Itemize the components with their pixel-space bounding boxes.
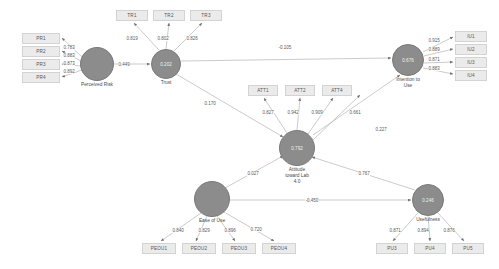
path-coefficient-tr-att: 0.170 [204, 101, 216, 106]
loading-label-iu-iu1: 0.915 [428, 38, 440, 43]
construct-label-pu: Usefulness [398, 217, 458, 223]
loading-label-att-att1: 0.827 [262, 110, 274, 115]
loading-label-iu-iu2: 0.889 [428, 47, 440, 52]
loading-label-pu-pu3: 0.871 [389, 228, 401, 233]
loading-label-eou-peou3: 0.896 [224, 228, 236, 233]
construct-node-att[interactable]: 0.792 [279, 130, 315, 166]
loading-label-pu-pu4: 0.894 [417, 228, 429, 233]
path-coefficient-att-iu: 0.227 [375, 127, 387, 132]
construct-node-pu[interactable]: 0.246 [412, 184, 444, 216]
loading-label-pr-pr4: 0.892 [63, 69, 75, 74]
construct-label-att: Attitude toward Lab 4.0 [267, 167, 327, 185]
construct-node-iu[interactable]: 0.676 [392, 44, 424, 76]
loading-label-eou-peou4: 0.720 [250, 227, 262, 232]
indicator-box-pr2[interactable]: PR2 [22, 46, 60, 57]
path-coefficient-eou-att: 0.027 [247, 171, 259, 176]
indicator-box-tr1[interactable]: TR1 [116, 10, 148, 21]
loading-label-pr-pr2: 0.883 [63, 53, 75, 58]
construct-label-tr: Trust [136, 80, 196, 86]
path-coefficient-pr-tr: 0.449 [118, 62, 130, 67]
loading-label-tr-tr2: 0.802 [157, 36, 169, 41]
construct-label-pr: Perceived Risk [67, 82, 127, 88]
indicator-box-pr3[interactable]: PR3 [22, 59, 60, 70]
indicator-box-pu3[interactable]: PU3 [376, 243, 408, 254]
loading-label-att-att4: 0.909 [311, 110, 323, 115]
indicator-box-peou2[interactable]: PEOU2 [182, 243, 216, 254]
indicator-box-peou4[interactable]: PEOU4 [262, 243, 296, 254]
construct-node-pr[interactable] [80, 47, 114, 81]
indicator-box-tr2[interactable]: TR2 [153, 10, 185, 21]
loading-label-eou-peou1: 0.840 [172, 228, 184, 233]
indicator-box-pr1[interactable]: PR1 [22, 33, 60, 44]
construct-node-tr[interactable]: 0.202 [151, 49, 181, 79]
path-coefficient-eou-pu: -0.450 [305, 198, 319, 203]
indicator-box-iu1[interactable]: IU1 [455, 31, 487, 42]
loading-label-iu-iu3: 0.871 [428, 57, 440, 62]
loading-label-att-att5: 0.661 [349, 110, 361, 115]
indicator-box-att2[interactable]: ATT2 [285, 85, 315, 96]
indicator-box-att1[interactable]: ATT1 [248, 85, 278, 96]
indicator-box-iu4[interactable]: IU4 [455, 70, 487, 81]
construct-label-eou: Ease of Use [182, 218, 242, 224]
construct-label-iu: Intention to Use [378, 77, 438, 89]
loading-label-att-att2: 0.942 [287, 110, 299, 115]
construct-node-eou[interactable] [194, 181, 230, 217]
loading-label-tr-tr1: 0.819 [126, 36, 138, 41]
loading-label-pr-pr3: 0.873 [63, 61, 75, 66]
loading-label-pu-pu5: 0.876 [443, 228, 455, 233]
indicator-box-pu4[interactable]: PU4 [414, 243, 446, 254]
indicator-box-pr4[interactable]: PR4 [22, 72, 60, 83]
indicator-box-iu2[interactable]: IU2 [455, 44, 487, 55]
indicator-box-att4[interactable]: ATT4 [322, 85, 352, 96]
indicator-box-pu5[interactable]: PU5 [452, 243, 484, 254]
path-diagram-canvas: PR1PR2PR3PR4TR1TR2TR3ATT1ATT2ATT4IU1IU2I… [0, 0, 499, 269]
loading-label-iu-iu4: 0.883 [428, 66, 440, 71]
loading-label-tr-tr3: 0.826 [186, 36, 198, 41]
indicator-box-iu3[interactable]: IU3 [455, 57, 487, 68]
indicator-box-peou3[interactable]: PEOU3 [222, 243, 256, 254]
path-coefficient-tr-iu: -0.105 [278, 45, 292, 50]
indicator-box-tr3[interactable]: TR3 [190, 10, 222, 21]
loading-label-pr-pr1: 0.783 [63, 45, 75, 50]
loading-label-eou-peou2: 0.829 [198, 228, 210, 233]
path-coefficient-pu-att: 0.767 [358, 171, 370, 176]
indicator-box-peou1[interactable]: PEOU1 [142, 243, 176, 254]
